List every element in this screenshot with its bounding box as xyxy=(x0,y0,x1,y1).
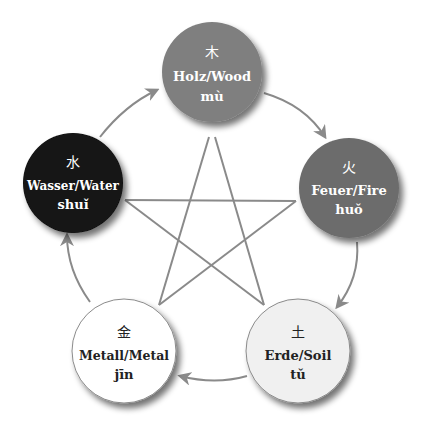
node-metal: 金 Metall/Metal jīn xyxy=(72,299,176,403)
node-label: Wasser/Water xyxy=(26,179,119,193)
star-line-water-fire xyxy=(125,200,296,201)
node-label: Feuer/Fire xyxy=(311,183,386,198)
node-hanzi: 水 xyxy=(66,154,80,170)
arrow-soil-to-metal xyxy=(180,376,247,381)
node-pinyin: huǒ xyxy=(335,202,363,217)
star-line-fire-metal xyxy=(159,201,296,305)
node-hanzi: 木 xyxy=(205,44,219,60)
node-fire: 火 Feuer/Fire huǒ xyxy=(299,138,399,238)
arrow-water-to-wood xyxy=(100,90,157,137)
arrow-wood-to-fire xyxy=(264,93,325,137)
node-hanzi: 土 xyxy=(291,324,305,340)
star-line-soil-water xyxy=(125,200,264,305)
node-soil: 土 Erde/Soil tǔ xyxy=(246,299,350,403)
node-hanzi: 金 xyxy=(117,324,131,340)
star-line-metal-wood xyxy=(159,137,209,305)
star-line-wood-soil xyxy=(215,137,264,305)
node-label: Erde/Soil xyxy=(265,348,332,363)
node-pinyin: shuǐ xyxy=(57,197,88,212)
node-pinyin: mù xyxy=(200,89,223,104)
node-wood: 木 Holz/Wood mù xyxy=(162,22,262,122)
five-elements-diagram: 木 Holz/Wood mù 火 Feuer/Fire huǒ 土 Erde/S… xyxy=(0,0,426,438)
node-hanzi: 火 xyxy=(342,159,356,175)
node-pinyin: tǔ xyxy=(290,367,305,382)
node-label: Holz/Wood xyxy=(173,69,251,84)
arrow-fire-to-soil xyxy=(337,242,357,307)
node-label: Metall/Metal xyxy=(79,348,169,363)
arrow-metal-to-water xyxy=(67,235,90,302)
node-pinyin: jīn xyxy=(113,367,134,382)
node-water: 水 Wasser/Water shuǐ xyxy=(23,133,123,233)
controlling-cycle-star xyxy=(125,137,296,305)
